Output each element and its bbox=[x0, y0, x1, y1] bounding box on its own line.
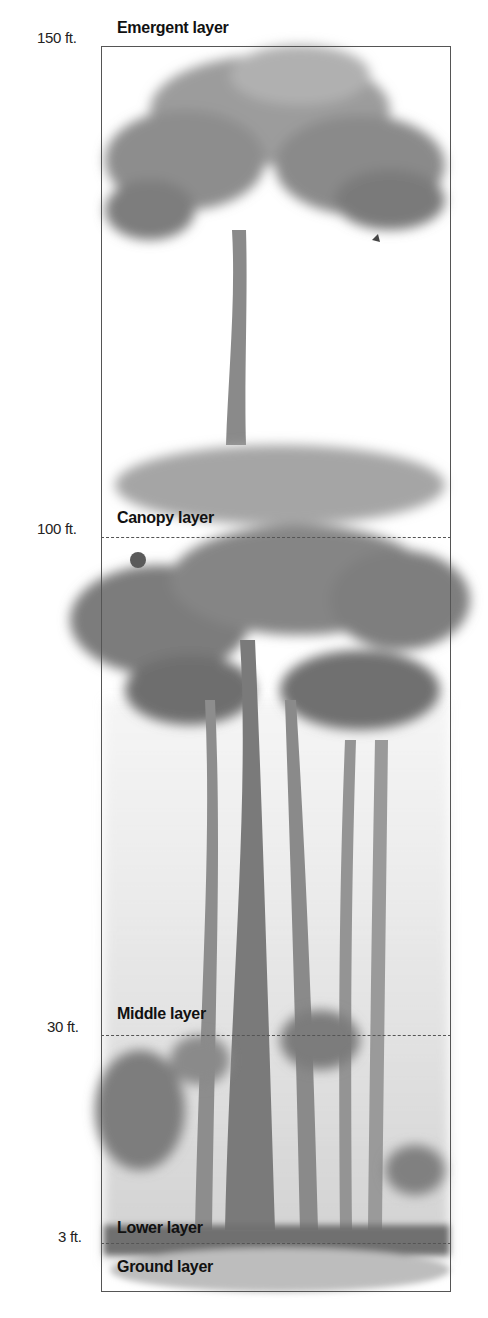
layer-label-ground: Ground layer bbox=[117, 1258, 213, 1276]
divider-middle bbox=[101, 1035, 451, 1036]
diagram-frame bbox=[101, 46, 451, 1292]
divider-emergent bbox=[101, 46, 451, 47]
layer-label-emergent: Emergent layer bbox=[117, 19, 228, 37]
height-label-150: 150 ft. bbox=[37, 29, 77, 46]
divider-canopy bbox=[101, 537, 451, 538]
height-label-3: 3 ft. bbox=[58, 1228, 82, 1245]
layer-label-lower: Lower layer bbox=[117, 1219, 203, 1237]
layer-label-middle: Middle layer bbox=[117, 1005, 206, 1023]
height-label-30: 30 ft. bbox=[47, 1018, 79, 1035]
divider-lower bbox=[101, 1243, 451, 1244]
layer-label-canopy: Canopy layer bbox=[117, 509, 214, 527]
height-label-100: 100 ft. bbox=[37, 520, 77, 537]
